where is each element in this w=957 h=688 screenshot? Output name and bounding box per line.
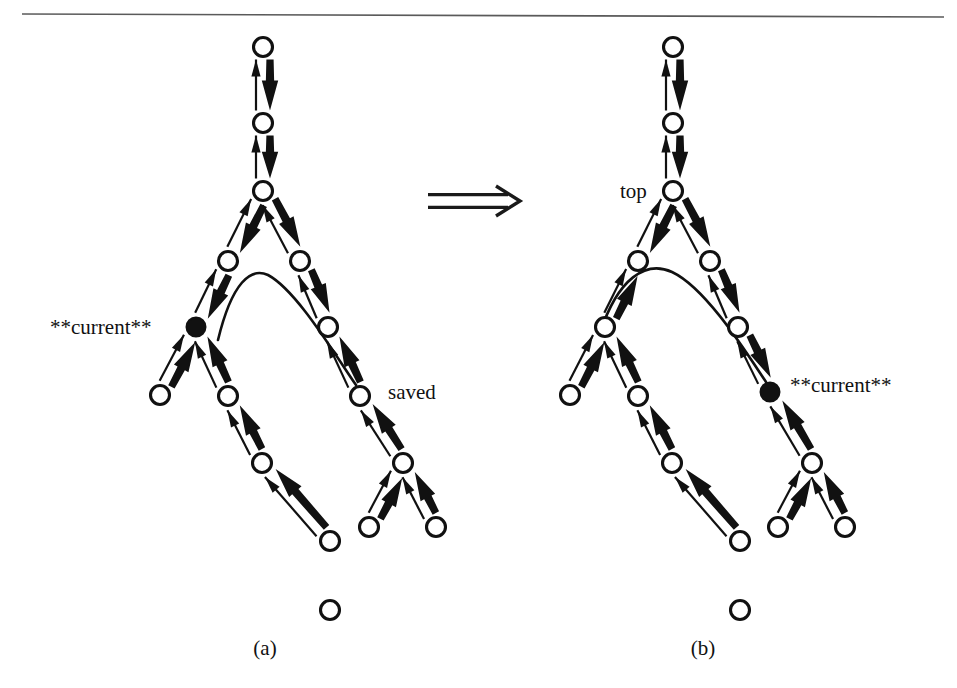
- tree-node[interactable]: [291, 252, 310, 271]
- panel-a-edge-6-up-arrow-head: [172, 335, 184, 352]
- tree-node[interactable]: [769, 518, 788, 537]
- panel-a-edge-1-up-arrow-head: [251, 136, 260, 153]
- panel-a-edge-1-down-arrow: [262, 136, 278, 179]
- panel-a-edge-4-up-arrow-head: [205, 269, 217, 286]
- tree-node[interactable]: [729, 318, 748, 337]
- tree-node[interactable]: [629, 387, 648, 406]
- panel-b-edge-1-down-arrow: [672, 136, 688, 179]
- panel-a-edge-10-up-arrow-head: [361, 410, 374, 427]
- panel-a-edge-6-bold-up-arrow: [168, 342, 195, 389]
- implies-arrow-icon: [428, 186, 520, 216]
- saved-label: saved: [388, 380, 436, 404]
- tree-node[interactable]: [321, 601, 340, 620]
- panel-b-nodes: [561, 38, 855, 620]
- tree-node[interactable]: [254, 38, 273, 57]
- panel-a: **current**saved(a): [50, 38, 446, 661]
- panel-a-nodes: [151, 38, 446, 620]
- panel-b-edge-5-up-arrow-head: [708, 275, 719, 292]
- tree-node[interactable]: [254, 182, 273, 201]
- tree-node[interactable]: [596, 318, 615, 337]
- tree-node[interactable]: [629, 252, 648, 271]
- tree-node[interactable]: [664, 182, 683, 201]
- tree-node[interactable]: [360, 518, 379, 537]
- panel-b-edge-3-down-arrow: [682, 197, 711, 247]
- panel-b-caption: (b): [691, 636, 716, 660]
- panel-b-edge-7-up-arrow-head: [604, 341, 615, 358]
- tree-node[interactable]: [731, 601, 750, 620]
- tree-node[interactable]: [351, 387, 370, 406]
- figure-canvas: **current**saved(a) top**current**(b): [0, 0, 957, 688]
- tree-node[interactable]: [731, 532, 750, 551]
- panel-b: top**current**(b): [561, 38, 892, 661]
- tree-node[interactable]: [561, 386, 580, 405]
- tree-node[interactable]: [836, 518, 855, 537]
- tree-node[interactable]: [151, 386, 170, 405]
- tree-node[interactable]: [219, 252, 238, 271]
- panel-b-edge-2-up-arrow-head: [649, 199, 661, 216]
- horizontal-rule: [22, 14, 944, 17]
- tree-node[interactable]: [254, 114, 273, 133]
- tree-node[interactable]: [803, 454, 822, 473]
- panel-a-edge-9-up-arrow-head: [227, 410, 239, 427]
- panel-a-edge-0-up-arrow-head: [251, 60, 260, 77]
- tree-node[interactable]: [664, 114, 683, 133]
- panel-b-edge-0-down-arrow: [672, 60, 688, 111]
- tree-node[interactable]: [394, 454, 413, 473]
- tree-node[interactable]: [701, 252, 720, 271]
- panel-a-edge-3-down-arrow: [272, 197, 301, 247]
- current-label: **current**: [790, 373, 891, 397]
- panel-b-edge-9-up-arrow-head: [637, 410, 649, 427]
- panel-a-edge-0-down-arrow: [262, 60, 278, 111]
- panel-a-edge-2-up-arrow-head: [239, 199, 251, 216]
- panel-a-caption: (a): [253, 636, 276, 660]
- tree-node[interactable]: [663, 454, 682, 473]
- panel-b-edge-10-up-arrow-head: [770, 406, 783, 423]
- panel-b-edge-3-up-arrow-head: [673, 205, 685, 222]
- panel-a-edge-10-bold-up-arrow: [373, 404, 405, 451]
- tree-node[interactable]: [319, 318, 338, 337]
- top-label: top: [620, 179, 647, 203]
- panel-a-edge-13-up-arrow-head: [403, 477, 415, 494]
- panel-b-edge-0-up-arrow-head: [661, 60, 670, 77]
- implies-arrowhead: [496, 186, 520, 216]
- top-rule: [22, 14, 944, 17]
- panel-a-edge-5-up-arrow-head: [298, 275, 309, 292]
- panel-a-edge-12-up-arrow-head: [379, 471, 391, 488]
- panel-b-edge-10-bold-up-arrow: [782, 400, 814, 450]
- panel-b-edge-12-up-arrow-head: [788, 471, 800, 488]
- panel-b-edge-6-bold-up-arrow: [578, 342, 604, 389]
- panel-b-edge-1-up-arrow-head: [661, 136, 670, 153]
- panel-b-edge-13-up-arrow-head: [812, 477, 824, 494]
- tree-node[interactable]: [253, 454, 272, 473]
- figure-root: **current**saved(a) top**current**(b): [0, 0, 957, 688]
- panel-a-edge-7-up-arrow-head: [195, 341, 206, 358]
- tree-node[interactable]: [664, 38, 683, 57]
- tree-node[interactable]: [427, 518, 446, 537]
- tree-node-current[interactable]: [761, 383, 780, 402]
- tree-node[interactable]: [219, 387, 238, 406]
- panel-a-edge-3-up-arrow-head: [263, 205, 275, 222]
- tree-node[interactable]: [321, 532, 340, 551]
- tree-node-current[interactable]: [187, 318, 206, 337]
- current-label: **current**: [50, 315, 151, 339]
- panel-b-edge-6-up-arrow-head: [581, 335, 593, 352]
